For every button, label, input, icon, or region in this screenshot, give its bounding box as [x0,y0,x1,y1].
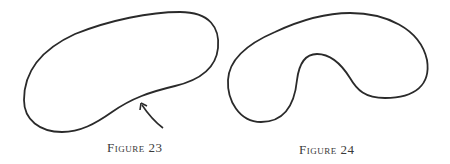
arrow-icon [142,105,163,128]
closed-curve-24 [225,0,450,164]
figure-24: Figure 24 [225,0,450,164]
figure-caption: Figure 24 [299,142,354,158]
figure-23: Figure 23 [0,0,225,164]
figure-caption: Figure 23 [107,140,162,156]
